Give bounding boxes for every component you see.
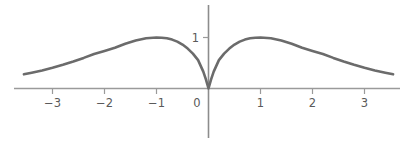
function-plot: −3 −2 −1 0 1 2 3 1 [0,0,414,141]
x-tick-label-minus3: −3 [44,96,61,110]
y-tick-label-1: 1 [192,31,199,45]
x-tick-label-minus2: −2 [96,96,113,110]
x-tick-label-origin: 0 [193,96,200,110]
x-tick-label-1: 1 [257,96,264,110]
x-tick-label-minus1: −1 [148,96,165,110]
chart-figure: −3 −2 −1 0 1 2 3 1 [0,0,414,141]
x-tick-label-2: 2 [309,96,316,110]
x-tick-label-3: 3 [361,96,368,110]
